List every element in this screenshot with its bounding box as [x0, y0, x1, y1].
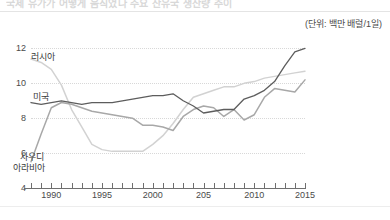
series-label-usa: 미국: [33, 92, 49, 102]
series-label-saudi-line2: 아라비아: [13, 163, 45, 173]
series-label-russia: 러시아: [31, 52, 55, 62]
line-saudi-arabia: [31, 80, 305, 162]
line-usa: [31, 48, 305, 113]
series-lines: [0, 0, 390, 220]
bottom-divider: [0, 206, 390, 207]
series-label-saudi-line1: 사우디: [20, 152, 44, 162]
chart-figure: 국제 유가가 어떻게 움직였나 주요 산유국 생산량 추이 (단위: 백만 배럴…: [0, 0, 390, 220]
